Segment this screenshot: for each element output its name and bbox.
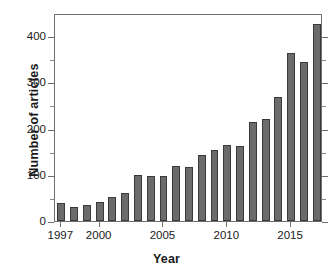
x-tick-label: 2005 [140, 229, 184, 241]
bar [313, 24, 321, 221]
plot-area [55, 15, 321, 221]
x-tick [162, 222, 163, 227]
bar [172, 166, 180, 221]
right-tick-minor [322, 199, 326, 200]
y-axis-title: Number of articles [27, 25, 41, 215]
right-tick-major [322, 176, 328, 177]
bar [262, 119, 270, 221]
y-tick-major [48, 130, 54, 131]
y-tick-minor [50, 199, 54, 200]
bar [121, 193, 129, 221]
x-tick [226, 222, 227, 227]
bar [249, 122, 257, 221]
bar [185, 167, 193, 221]
bar [300, 62, 308, 221]
right-tick-major [322, 130, 328, 131]
bar [211, 150, 219, 221]
y-tick-label: 100 [6, 170, 46, 182]
bar [57, 203, 65, 221]
y-tick-minor [50, 106, 54, 107]
right-tick-minor [322, 106, 326, 107]
x-tick-label: 2000 [77, 229, 121, 241]
right-tick-major [322, 83, 328, 84]
right-tick-major [322, 37, 328, 38]
bar [198, 155, 206, 221]
right-tick-minor [322, 60, 326, 61]
x-tick-label: 2010 [204, 229, 248, 241]
bar [223, 145, 231, 221]
bar [236, 146, 244, 221]
y-tick-label: 400 [6, 31, 46, 43]
bar [274, 97, 282, 221]
x-tick [290, 222, 291, 227]
y-tick-minor [50, 153, 54, 154]
y-tick-major [48, 176, 54, 177]
bar-chart-figure: Number of articles 0100200300400 1997200… [0, 0, 333, 276]
bar [83, 205, 91, 221]
y-tick-label: 200 [6, 124, 46, 136]
right-tick-minor [322, 153, 326, 154]
bar [70, 207, 78, 221]
bar [160, 176, 168, 221]
y-tick-minor [50, 60, 54, 61]
y-tick-label: 0 [6, 216, 46, 228]
x-axis-title: Year [0, 252, 333, 266]
y-tick-major [48, 37, 54, 38]
bar [96, 202, 104, 221]
plot-frame [54, 14, 322, 222]
y-tick-major [48, 222, 54, 223]
x-tick [60, 222, 61, 227]
right-tick-major [322, 222, 328, 223]
x-tick-label: 2015 [268, 229, 312, 241]
y-tick-major [48, 83, 54, 84]
bar [108, 197, 116, 221]
bar [134, 175, 142, 221]
x-tick [99, 222, 100, 227]
bar [287, 53, 295, 221]
bar [147, 176, 155, 221]
y-tick-label: 300 [6, 77, 46, 89]
